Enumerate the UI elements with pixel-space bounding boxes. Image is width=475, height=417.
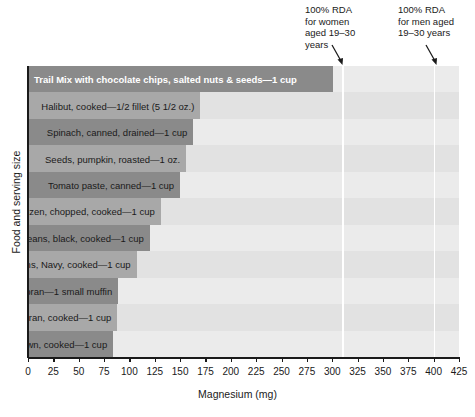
x-axis-tick [307, 357, 308, 362]
y-axis-line [27, 66, 29, 358]
magnesium-bar-chart: 100% RDA for women aged 19–30 years 100%… [0, 0, 475, 417]
chart-band: Beans, Navy, cooked—1 cup [28, 251, 459, 277]
rda-women-arrow-icon [330, 44, 346, 66]
x-axis-tick [358, 357, 359, 362]
rda-men-annotation-label: 100% RDA for men aged 19–30 years [398, 4, 468, 39]
rda-men-arrow-icon [424, 44, 440, 66]
x-axis-line [28, 357, 459, 359]
rda-men-reference-line [434, 66, 436, 357]
bar-label: Seeds, pumpkin, roasted—1 oz. [45, 153, 180, 164]
bar-label: Tomato paste, canned—1 cup [48, 180, 174, 191]
x-axis-tick [53, 357, 54, 362]
bar-label: Oat bran, cooked—1 cup [28, 312, 111, 323]
chart-band: Oat bran, cooked—1 cup [28, 304, 459, 330]
x-axis-tick-label: 175 [197, 366, 214, 377]
x-axis-tick [180, 357, 181, 362]
x-axis-tick [231, 357, 232, 362]
bar-label: Halibut, cooked—1/2 fillet (5 1/2 oz.) [41, 100, 194, 111]
x-axis-tick-label: 100 [121, 366, 138, 377]
x-axis-tick-label: 275 [299, 366, 316, 377]
bar-label: Spinach, canned, drained—1 cup [47, 127, 188, 138]
x-axis-tick-label: 300 [324, 366, 341, 377]
x-axis-tick [434, 357, 435, 362]
x-axis-tick [155, 357, 156, 362]
bar-label: Rice, brown, cooked—1 cup [28, 338, 107, 349]
chart-band: Muffins, oat bran—1 small muffin [28, 278, 459, 304]
x-axis-tick-label: 200 [222, 366, 239, 377]
x-axis-tick-label: 25 [48, 366, 59, 377]
bar-label: Trail Mix with chocolate chips, salted n… [34, 74, 297, 85]
rda-women-reference-line [342, 66, 344, 357]
x-axis-tick [104, 357, 105, 362]
x-axis-tick [408, 357, 409, 362]
bar-label: Beans, black, cooked—1 cup [28, 232, 144, 243]
x-axis-tick-label: 150 [172, 366, 189, 377]
x-axis-tick-label: 125 [146, 366, 163, 377]
chart-band: Seeds, pumpkin, roasted—1 oz. [28, 145, 459, 171]
x-axis-tick-label: 0 [25, 366, 31, 377]
x-axis-tick-label: 325 [349, 366, 366, 377]
x-axis-tick-label: 400 [425, 366, 442, 377]
x-axis-tick-label: 50 [73, 366, 84, 377]
bar-label: Muffins, oat bran—1 small muffin [28, 285, 112, 296]
chart-band: Beans, black, cooked—1 cup [28, 225, 459, 251]
x-axis-tick [282, 357, 283, 362]
chart-band: Rice, brown, cooked—1 cup [28, 331, 459, 357]
x-axis-tick [79, 357, 80, 362]
x-axis-tick [383, 357, 384, 362]
x-axis-tick [256, 357, 257, 362]
x-axis-tick-label: 250 [273, 366, 290, 377]
plot-area: Trail Mix with chocolate chips, salted n… [28, 66, 459, 357]
chart-band: Tomato paste, canned—1 cup [28, 172, 459, 198]
x-axis-tick-label: 375 [400, 366, 417, 377]
bar-label: Spinach, frozen, chopped, cooked—1 cup [28, 206, 155, 217]
x-axis-title: Magnesium (mg) [0, 388, 475, 400]
chart-band: Halibut, cooked—1/2 fillet (5 1/2 oz.) [28, 92, 459, 118]
x-axis-tick [28, 357, 29, 362]
x-axis-tick [332, 357, 333, 362]
chart-band: Spinach, canned, drained—1 cup [28, 119, 459, 145]
y-axis-title: Food and serving size [10, 102, 22, 302]
bar-label: Beans, Navy, cooked—1 cup [28, 259, 131, 270]
x-axis-tick-label: 225 [248, 366, 265, 377]
x-axis-tick [205, 357, 206, 362]
chart-band: Spinach, frozen, chopped, cooked—1 cup [28, 198, 459, 224]
x-axis-tick [459, 357, 460, 362]
x-axis-tick [129, 357, 130, 362]
x-axis-tick-label: 75 [98, 366, 109, 377]
x-axis-tick-label: 350 [375, 366, 392, 377]
x-axis-tick-label: 425 [451, 366, 468, 377]
chart-band: Trail Mix with chocolate chips, salted n… [28, 66, 459, 92]
